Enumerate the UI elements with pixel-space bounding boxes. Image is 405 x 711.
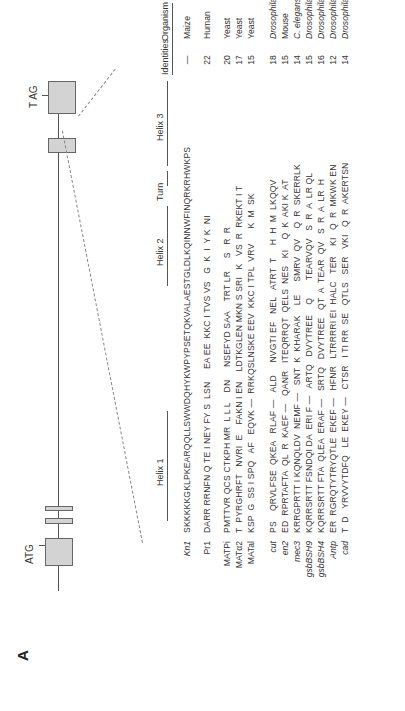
sequence: T PYRGHRFT NVRI E FAKN I EN LDTKGLEN MKN… <box>234 186 244 533</box>
gene-name: Kn1 <box>182 541 192 611</box>
gene-name: en2 <box>280 541 290 611</box>
identities-bar <box>172 41 173 75</box>
organism: C. elegans <box>292 0 302 39</box>
turn-bar <box>167 171 168 186</box>
gene-name: MATα2 <box>234 541 244 611</box>
organism: Drosophila <box>328 0 338 39</box>
organism: Maize <box>182 16 192 39</box>
organism: Human <box>202 11 212 39</box>
atg-label: ATG <box>24 544 35 564</box>
helix3-bar <box>167 81 168 166</box>
helix1-label: Helix 1 <box>155 458 165 486</box>
sequence: SKKKKKGKLPKEARQQLLSWWDQHYKWPYPSETQKVALAE… <box>182 147 192 533</box>
sequence: ED RPRTAFTA QL R KAEF — QANR ITEQRRQT QE… <box>280 179 290 533</box>
organism: Drosophila <box>340 0 350 39</box>
sequence: PS QRVLFSE QKEA RLAF — ALD NVGTI EF NEL … <box>268 180 278 533</box>
identities: — <box>182 45 192 75</box>
helix1-bar <box>167 411 168 521</box>
organism: Mouse <box>280 13 290 39</box>
organism: Yeast <box>234 18 244 39</box>
gene-name: cut <box>268 541 278 611</box>
helix2-bar <box>167 206 168 286</box>
gene-name: Antp <box>328 541 338 611</box>
organism: Drosophila <box>268 0 278 39</box>
identities: 15 <box>280 45 290 75</box>
sequence: ER RGRQTYTRYQTLE EKEF — HFNR LTRRRRI EI … <box>328 164 338 533</box>
sequence: DARR RRNFN Q TE I NEY FY S LSN EA EE KKC… <box>202 215 212 533</box>
organism: Yeast <box>246 18 256 39</box>
panel-label: A <box>14 650 31 661</box>
sequence: KQRRSRTT FTA QLEA ERAF — SRTQ DVYTREE QT… <box>316 179 326 533</box>
turn-label: Turn <box>155 183 165 201</box>
sequence: KRRGPRTT I KQNQLDV NEMF — SNT K KHARAK L… <box>292 164 302 533</box>
gene-baseline <box>58 81 59 591</box>
exon-homeobox-2 <box>48 81 76 114</box>
identities: 22 <box>202 45 212 75</box>
identities: 15 <box>246 45 256 75</box>
zoom-dash-right <box>78 69 116 117</box>
identities-header: Identities <box>160 39 170 75</box>
exon-2 <box>45 518 73 524</box>
identities: 14 <box>340 45 350 75</box>
sequence: KSP G SS I SPQ AF EQVK — RRKQSLNSKE EEV … <box>246 193 256 533</box>
organism-bar <box>172 3 173 41</box>
identities: 12 <box>328 45 338 75</box>
identities: 16 <box>316 45 326 75</box>
tag-tick <box>42 95 48 96</box>
exon-1 <box>45 538 73 566</box>
exon-3 <box>45 506 73 511</box>
gene-name: mec3 <box>292 541 302 611</box>
gene-name: MATal <box>246 541 256 611</box>
organism-header: Organism <box>160 2 170 41</box>
atg-tick <box>39 545 45 546</box>
gene-name: gsbBSH4 <box>316 541 326 611</box>
sequence: KQRRSRTT FSNDQI DA ERI F — ARTQ DVYTREE … <box>304 173 314 533</box>
gene-name: Pr1 <box>202 541 212 611</box>
gene-name: MATPi <box>222 541 232 611</box>
tag-label: T AG <box>28 85 39 108</box>
identities: 17 <box>234 45 244 75</box>
gene-name: gsbBSH9 <box>304 541 314 611</box>
exon-homeobox-1 <box>48 138 76 153</box>
figure-canvas: A ATG T AG Helix 1 Helix 2 Turn Helix 3 … <box>0 0 405 711</box>
organism: Drosophila <box>304 0 314 39</box>
organism: Drosophila <box>316 0 326 39</box>
identities: 18 <box>268 45 278 75</box>
identities: 14 <box>292 45 302 75</box>
identities: 15 <box>304 45 314 75</box>
sequence: PMTTVR QCS CTKPH MR L L L DN NSEFYD SAA … <box>222 227 232 533</box>
helix3-label: Helix 3 <box>155 113 165 141</box>
sequence: T D YRVVYTDFQ LE EKEY — CTSR I TI RR SE … <box>340 163 350 533</box>
gene-name: cad <box>340 541 350 611</box>
helix2-label: Helix 2 <box>155 238 165 266</box>
organism: Yeast <box>222 18 232 39</box>
zoom-dash-left <box>62 131 143 543</box>
identities: 20 <box>222 45 232 75</box>
